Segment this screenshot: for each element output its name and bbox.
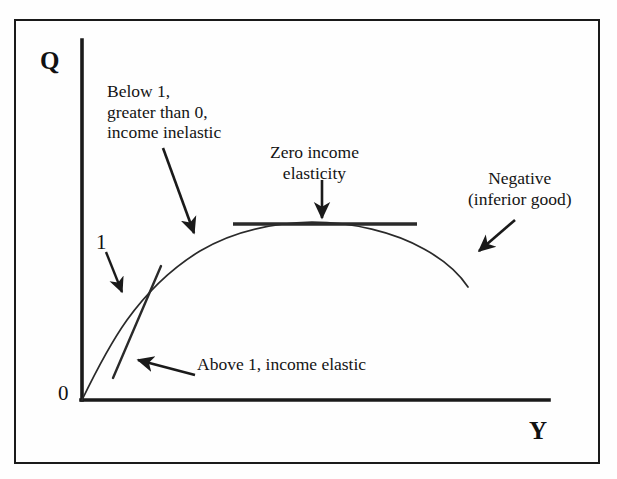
annotation-negative-inferior: Negative (inferior good) (468, 168, 572, 209)
origin-label: 0 (58, 383, 69, 404)
unit-elasticity-tangent-line (113, 266, 161, 378)
arrow-above-one (138, 360, 195, 375)
annotation-zero-elasticity: Zero income elasticity (270, 142, 359, 183)
engel-curve-diagram (0, 0, 617, 479)
y-axis-label: Q (40, 48, 59, 73)
x-axis-label: Y (529, 418, 547, 443)
arrow-below-one (163, 148, 194, 233)
arrow-unit-elasticity (106, 252, 122, 292)
arrow-negative (479, 220, 515, 251)
unit-elasticity-label: 1 (96, 232, 107, 253)
annotation-above-one: Above 1, income elastic (197, 354, 366, 375)
figure-page: Q Y 0 1 Below 1, greater than 0, income … (0, 0, 617, 479)
annotation-below-one: Below 1, greater than 0, income inelasti… (107, 81, 221, 143)
